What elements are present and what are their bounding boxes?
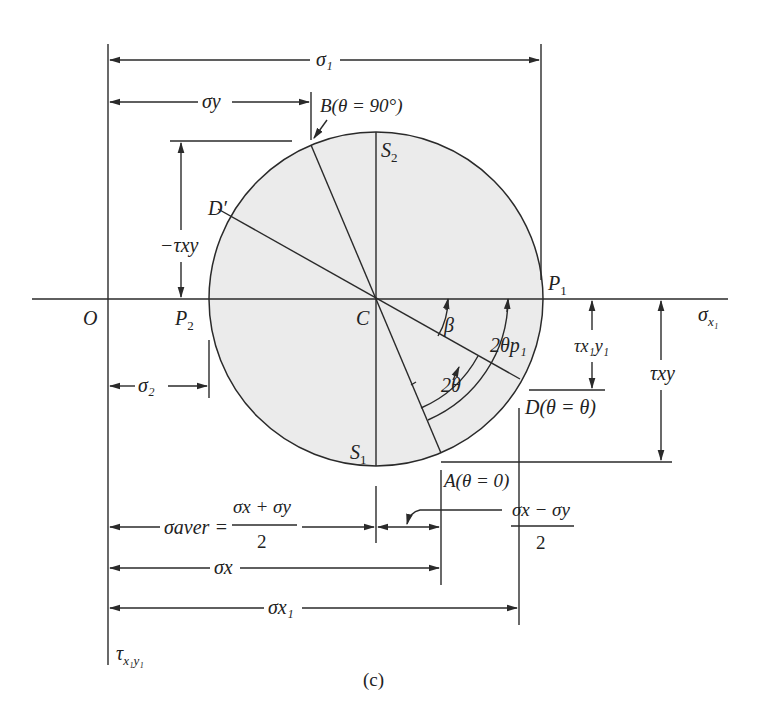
two-theta-p1-label: 2θp₁ — [490, 334, 527, 357]
sigma1-label: σ₁ — [316, 48, 333, 70]
half-diff-leader — [407, 510, 502, 524]
neg-tau-xy-label: −τxy — [160, 234, 199, 257]
point-p1-label: P1 — [547, 272, 567, 298]
two-theta-p1-arrow — [507, 299, 508, 312]
sigmax-label: σx — [214, 556, 233, 578]
point-a-label: A(θ = 0) — [442, 470, 509, 492]
center-label: C — [356, 307, 370, 329]
point-b-arrow — [314, 120, 327, 138]
sigma-aver-denominator: 2 — [257, 531, 267, 552]
mohr-circle-diagram: σ₁ σy B(θ = 90°) −τxy D′ S2 S1 O P2 C P1… — [0, 0, 780, 719]
two-theta-label: 2θ — [441, 374, 461, 396]
half-diff-numerator: σx − σy — [512, 499, 570, 520]
sigmay-label: σy — [202, 90, 221, 113]
half-diff-denominator: 2 — [536, 532, 546, 553]
origin-label: O — [83, 307, 97, 329]
tau-xy-label: τxy — [650, 362, 675, 385]
sigmax1-label: σx₁ — [268, 596, 294, 618]
sigma-aver-numerator: σx + σy — [233, 496, 291, 517]
point-p2-label: P2 — [174, 307, 194, 333]
sigma2-label: σ₂ — [138, 374, 155, 396]
figure-caption: (c) — [363, 669, 384, 691]
tau-x1y1-label: τx₁y₁ — [574, 336, 609, 356]
point-d-label: D(θ = θ) — [524, 396, 596, 419]
tau-axis-label: τx₁y₁ — [116, 642, 144, 668]
beta-label: β — [443, 314, 454, 337]
sigma-aver-lhs: σaver = — [164, 516, 228, 538]
point-d-prime-label: D′ — [207, 197, 227, 219]
point-b-label: B(θ = 90°) — [320, 95, 403, 117]
sigma-x1-axis-label: σx₁ — [698, 303, 718, 329]
